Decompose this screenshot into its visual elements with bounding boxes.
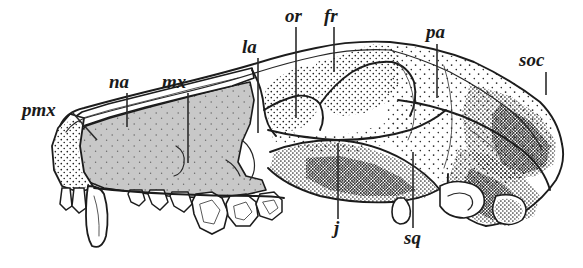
skull-illustration: pmxnamxlaorfrpasocjsq: [0, 0, 583, 268]
label-mx: mx: [162, 71, 187, 92]
label-na: na: [109, 71, 130, 92]
label-la: la: [242, 36, 257, 57]
label-fr: fr: [324, 5, 338, 26]
label-soc: soc: [518, 49, 545, 70]
label-sq: sq: [403, 227, 421, 248]
skull-figure: pmxnamxlaorfrpasocjsq: [0, 0, 583, 268]
label-pmx: pmx: [20, 99, 56, 120]
label-pa: pa: [424, 21, 446, 42]
label-or: or: [285, 5, 303, 26]
